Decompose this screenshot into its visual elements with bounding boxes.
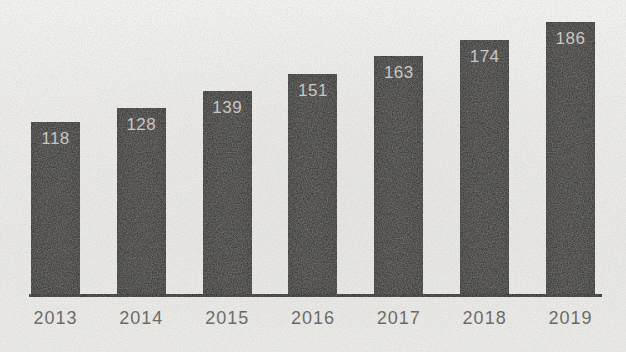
- bar-value-label: 174: [460, 47, 509, 67]
- x-axis-tick-cell: 2015: [203, 307, 252, 329]
- x-axis-line: [29, 294, 602, 297]
- bar-value-label: 118: [31, 129, 80, 149]
- bar-value-label: 151: [288, 81, 337, 101]
- bar-2017: 163: [374, 56, 423, 297]
- bar-2015: 139: [203, 91, 252, 297]
- bar-value-label: 139: [203, 98, 252, 118]
- bar-2019: 186: [546, 22, 595, 297]
- x-axis-tick-label: 2016: [291, 307, 335, 329]
- x-axis-tick-cell: 2019: [546, 307, 595, 329]
- chart-plot-area: 118128139151163174186: [31, 16, 595, 297]
- bar-value-label: 163: [374, 63, 423, 83]
- x-axis-tick-cell: 2018: [460, 307, 509, 329]
- scanned-chart-page: 118128139151163174186 201320142015201620…: [0, 0, 626, 352]
- x-axis-tick-label: 2018: [463, 307, 507, 329]
- x-axis-tick-label: 2014: [119, 307, 163, 329]
- bar-2016: 151: [288, 74, 337, 297]
- x-axis-tick-cell: 2016: [288, 307, 337, 329]
- x-axis-labels: 2013201420152016201720182019: [31, 307, 595, 329]
- bar-value-label: 128: [117, 115, 166, 135]
- x-axis-tick-label: 2013: [33, 307, 77, 329]
- bar-2014: 128: [117, 108, 166, 297]
- bar-2013: 118: [31, 122, 80, 297]
- bar-value-label: 186: [546, 29, 595, 49]
- bar-2018: 174: [460, 40, 509, 297]
- x-axis-tick-label: 2019: [548, 307, 592, 329]
- x-axis-tick-label: 2017: [377, 307, 421, 329]
- x-axis-tick-label: 2015: [205, 307, 249, 329]
- x-axis-tick-cell: 2017: [374, 307, 423, 329]
- x-axis-tick-cell: 2014: [117, 307, 166, 329]
- x-axis-tick-cell: 2013: [31, 307, 80, 329]
